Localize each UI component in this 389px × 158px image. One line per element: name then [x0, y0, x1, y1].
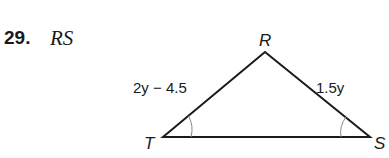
- vertex-label-t: T: [144, 134, 156, 153]
- vertex-label-s: S: [374, 134, 386, 153]
- triangle-figure: R T S 2y − 4.5 1.5y: [0, 0, 389, 158]
- angle-arc-t: [189, 116, 193, 137]
- vertex-label-r: R: [259, 31, 271, 50]
- side-label-tr: 2y − 4.5: [133, 79, 187, 96]
- angle-arc-s: [341, 117, 346, 137]
- side-label-rs: 1.5y: [316, 79, 345, 96]
